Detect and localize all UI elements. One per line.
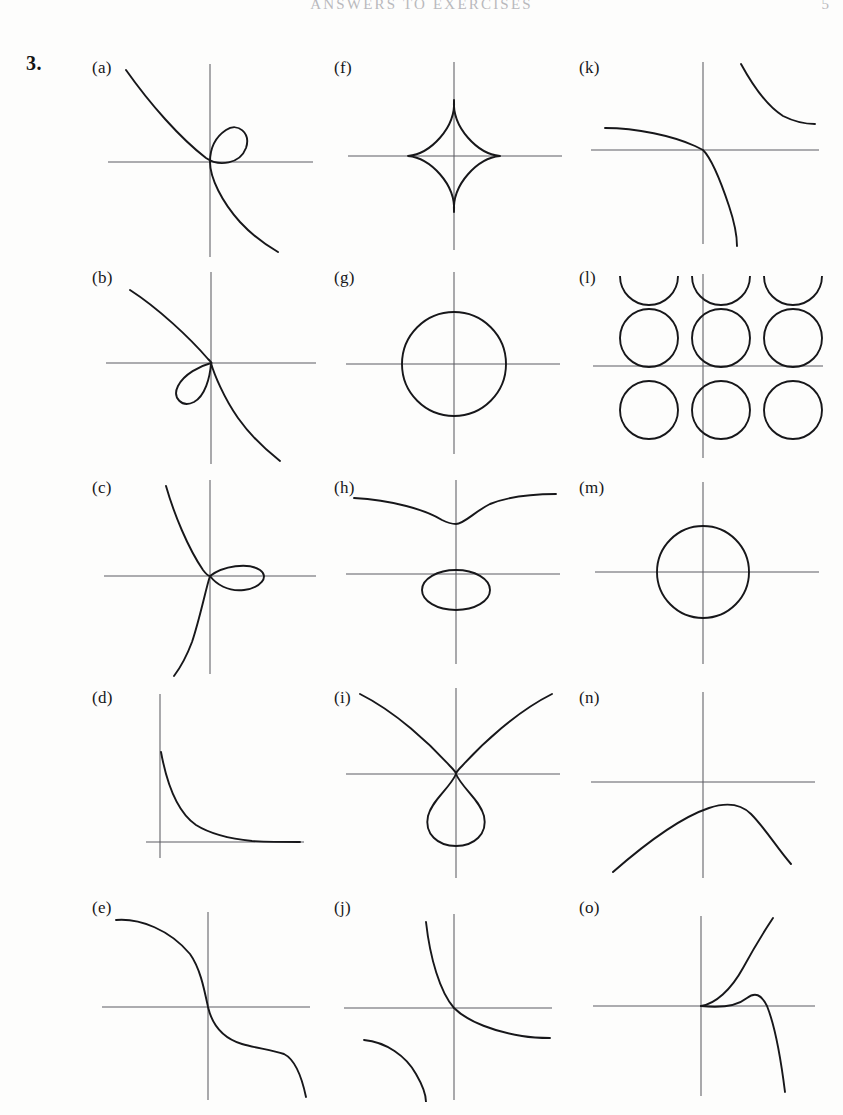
axes-f [348,62,562,250]
curve-j-separate-arc [364,1040,426,1102]
curve-c [166,486,264,676]
figure-n: (n) [575,682,825,892]
figure-f: (f) [330,52,580,262]
axes-m [595,482,819,664]
page-number: 5 [822,0,830,13]
figure-e: (e) [88,892,338,1102]
figure-l: (l) [575,262,825,472]
curve-b [130,290,280,461]
axes-e [102,912,310,1100]
curve-n [613,805,791,872]
figure-canvas-j [330,892,580,1102]
figure-canvas-k [575,52,825,262]
figure-m: (m) [575,472,825,682]
figure-canvas-i [330,682,580,892]
figure-canvas-d [88,682,338,892]
curve-o-peaking-branch [701,995,785,1092]
figure-canvas-c [88,472,338,682]
answers-page: ANSWERS TO EXERCISES 5 3. (a) (b) [0,0,843,1115]
figure-canvas-n [575,682,825,892]
figure-canvas-h [330,472,580,682]
curve-k-separate-arc [741,64,815,124]
figure-canvas-e [88,892,338,1102]
curve-e [116,920,306,1097]
figure-i: (i) [330,682,580,892]
figure-canvas-o [575,892,825,1102]
curve-h-upper-branch [354,494,556,524]
running-head: ANSWERS TO EXERCISES [0,0,843,13]
figure-a: (a) [88,52,338,262]
figure-canvas-g [330,262,580,472]
figure-d: (d) [88,682,338,892]
figure-j: (j) [330,892,580,1102]
axes-i [346,688,560,878]
figure-g: (g) [330,262,580,472]
curve-d [161,752,300,842]
figure-c: (c) [88,472,338,682]
axes-n [591,692,815,878]
axes-j [344,914,552,1100]
exercise-number: 3. [26,52,42,75]
curve-k-main-branch [605,128,737,246]
axes-d [146,694,304,858]
figure-canvas-f [330,52,580,262]
figure-canvas-b [88,262,338,472]
figure-h: (h) [330,472,580,682]
curve-j-main-branch [426,922,550,1038]
curve-o-rising-branch [701,918,773,1006]
figure-o: (o) [575,892,825,1102]
figure-canvas-m [575,472,825,682]
figure-b: (b) [88,262,338,472]
figure-canvas-l [575,262,825,472]
curve-l-lattice [620,262,822,439]
figure-k: (k) [575,52,825,262]
curve-a [126,70,278,252]
axes-g [346,272,560,454]
figure-canvas-a [88,52,338,262]
axes-h [346,480,560,664]
